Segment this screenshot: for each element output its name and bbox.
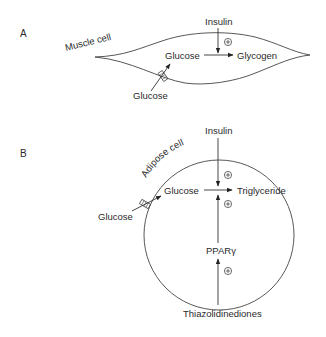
glucose-inside-label: Glucose	[164, 185, 199, 196]
thiazolidinediones-label: Thiazolidinediones	[183, 308, 262, 319]
stimulation-plus-icon	[224, 267, 231, 274]
glucose-outside-label: Glucose	[133, 90, 168, 101]
glucose-outside-label: Glucose	[98, 211, 133, 222]
muscle-cell-membrane	[95, 33, 310, 84]
stimulation-plus-icon	[224, 38, 231, 45]
stimulation-plus-icon	[224, 200, 231, 207]
diagram-canvas: A Muscle cell Glucose Glucose Glycogen I…	[0, 0, 326, 337]
adipose-cell-membrane	[144, 160, 294, 310]
glucose-transporter-icon	[158, 70, 168, 81]
muscle-cell-label: Muscle cell	[64, 31, 112, 53]
ppar-gamma-label: PPARγ	[206, 245, 236, 256]
glycogen-label: Glycogen	[237, 50, 277, 61]
glucose-uptake-arrow	[132, 196, 161, 211]
insulin-label: Insulin	[205, 125, 232, 136]
triglyceride-label: Triglyceride	[237, 185, 286, 196]
stimulation-plus-icon	[224, 171, 231, 178]
panel-a: A Muscle cell Glucose Glucose Glycogen I…	[20, 16, 310, 101]
insulin-label: Insulin	[205, 16, 232, 27]
glucose-inside-label: Glucose	[165, 50, 200, 61]
panel-a-label: A	[20, 28, 27, 39]
panel-b-label: B	[20, 148, 27, 159]
panel-b: B Adipose cell Glucose Glucose Triglycer…	[20, 125, 294, 319]
